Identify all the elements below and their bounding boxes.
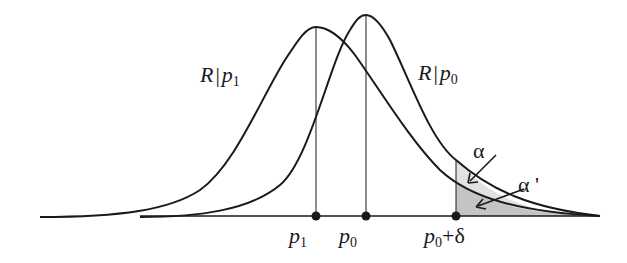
alpha-prime-label: α ' bbox=[518, 172, 539, 197]
curve-r-given-p1 bbox=[40, 27, 600, 217]
label-r-given-p0: R|p0 bbox=[417, 60, 458, 87]
p0-point bbox=[362, 212, 371, 221]
alpha-label: α bbox=[473, 138, 485, 163]
axis-label-p0-plus-delta: p0+δ bbox=[422, 223, 465, 250]
axis-label-p1: p1 bbox=[287, 223, 307, 250]
label-r-given-p1: R|p1 bbox=[199, 62, 240, 89]
distribution-diagram: R|p1 R|p0 p1 p0 p0+δ α α ' bbox=[0, 0, 627, 263]
axis-label-p0: p0 bbox=[337, 223, 357, 250]
p0-plus-delta-point bbox=[452, 212, 461, 221]
p1-point bbox=[312, 212, 321, 221]
